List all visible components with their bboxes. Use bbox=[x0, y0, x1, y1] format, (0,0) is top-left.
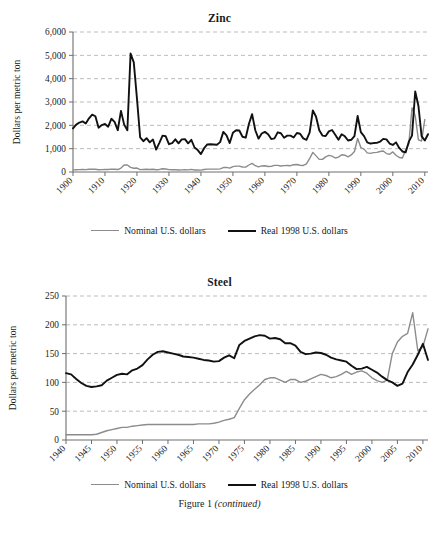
x-axis-tick-label: 1990 bbox=[302, 443, 322, 463]
x-axis-tick-label: 1980 bbox=[310, 175, 330, 195]
x-axis-tick-label: 1970 bbox=[278, 175, 298, 195]
steel-chart-svg: 0501001502002501940194519501955196019651… bbox=[0, 288, 439, 478]
x-axis-tick-label: 1995 bbox=[328, 443, 348, 463]
y-axis-tick-label: 50 bbox=[50, 407, 60, 417]
x-axis-tick-label: 1945 bbox=[73, 443, 93, 463]
x-axis-tick-label: 1940 bbox=[182, 175, 202, 195]
steel-chart-title: Steel bbox=[0, 276, 439, 288]
steel-legend-item-nominal: Nominal U.S. dollars bbox=[91, 479, 206, 490]
series-line-real-1998-u-s-dollars bbox=[73, 53, 428, 154]
series-line-nominal-u-s-dollars bbox=[73, 108, 425, 170]
steel-legend: Nominal U.S. dollars Real 1998 U.S. doll… bbox=[0, 479, 439, 490]
x-axis-tick-label: 1965 bbox=[175, 443, 195, 463]
zinc-legend: Nominal U.S. dollars Real 1998 U.S. doll… bbox=[0, 225, 439, 236]
steel-legend-item-real: Real 1998 U.S. dollars bbox=[228, 479, 348, 490]
steel-chart-panel: Steel 0501001502002501940194519501955196… bbox=[0, 272, 439, 560]
y-axis-title: Dollars per metric ton bbox=[11, 60, 22, 145]
zinc-chart-panel: Zinc 01,0002,0003,0004,0005,0006,0001900… bbox=[0, 0, 439, 272]
figure-page: Zinc 01,0002,0003,0004,0005,0006,0001900… bbox=[0, 0, 439, 560]
y-axis-tick-label: 4,000 bbox=[45, 74, 66, 84]
x-axis-tick-label: 1980 bbox=[251, 443, 271, 463]
real-line-swatch-icon bbox=[228, 484, 256, 486]
zinc-legend-item-real: Real 1998 U.S. dollars bbox=[228, 225, 348, 236]
y-axis-tick-label: 250 bbox=[45, 291, 59, 301]
y-axis-tick-label: 100 bbox=[45, 378, 59, 388]
x-axis-tick-label: 1955 bbox=[124, 443, 144, 463]
zinc-chart-title: Zinc bbox=[0, 12, 439, 24]
y-axis-tick-label: 6,000 bbox=[45, 27, 66, 37]
y-axis-tick-label: 150 bbox=[45, 349, 59, 359]
y-axis-tick-label: 200 bbox=[45, 320, 59, 330]
steel-legend-label-real: Real 1998 U.S. dollars bbox=[261, 479, 348, 490]
x-axis-tick-label: 1910 bbox=[86, 175, 106, 195]
y-axis-tick-label: 2,000 bbox=[45, 121, 66, 131]
x-axis-tick-label: 1960 bbox=[246, 175, 266, 195]
x-axis-tick-label: 2010 bbox=[406, 175, 426, 195]
x-axis-tick-label: 1900 bbox=[54, 175, 74, 195]
x-axis-tick-label: 1930 bbox=[150, 175, 170, 195]
x-axis-tick-label: 1950 bbox=[214, 175, 234, 195]
x-axis-tick-label: 2010 bbox=[404, 443, 424, 463]
x-axis-tick-label: 1970 bbox=[200, 443, 220, 463]
figure-caption: Figure 1 (continued) bbox=[0, 498, 439, 509]
y-axis-tick-label: 5,000 bbox=[45, 51, 66, 61]
x-axis-tick-label: 1985 bbox=[277, 443, 297, 463]
figure-caption-note: (continued) bbox=[215, 498, 261, 509]
x-axis-tick-label: 1990 bbox=[342, 175, 362, 195]
y-axis-tick-label: 3,000 bbox=[45, 97, 66, 107]
x-axis-tick-label: 1920 bbox=[118, 175, 138, 195]
steel-plot-area: 0501001502002501940194519501955196019651… bbox=[0, 288, 439, 478]
zinc-chart-svg: 01,0002,0003,0004,0005,0006,000190019101… bbox=[0, 24, 439, 224]
nominal-line-swatch-icon bbox=[91, 230, 119, 231]
x-axis-tick-label: 2005 bbox=[379, 443, 399, 463]
x-axis-tick-label: 1960 bbox=[149, 443, 169, 463]
zinc-legend-label-nominal: Nominal U.S. dollars bbox=[124, 225, 206, 236]
zinc-plot-area: 01,0002,0003,0004,0005,0006,000190019101… bbox=[0, 24, 439, 224]
x-axis-tick-label: 1940 bbox=[47, 443, 67, 463]
zinc-legend-label-real: Real 1998 U.S. dollars bbox=[261, 225, 348, 236]
nominal-line-swatch-icon bbox=[91, 484, 119, 485]
x-axis-tick-label: 2000 bbox=[353, 443, 373, 463]
real-line-swatch-icon bbox=[228, 230, 256, 232]
steel-legend-label-nominal: Nominal U.S. dollars bbox=[124, 479, 206, 490]
figure-caption-main: Figure 1 bbox=[178, 498, 212, 509]
zinc-legend-item-nominal: Nominal U.S. dollars bbox=[91, 225, 206, 236]
x-axis-tick-label: 1950 bbox=[98, 443, 118, 463]
x-axis-tick-label: 2000 bbox=[374, 175, 394, 195]
y-axis-tick-label: 1,000 bbox=[45, 144, 66, 154]
x-axis-tick-label: 1975 bbox=[226, 443, 246, 463]
y-axis-title: Dollars per metric ton bbox=[7, 326, 18, 411]
